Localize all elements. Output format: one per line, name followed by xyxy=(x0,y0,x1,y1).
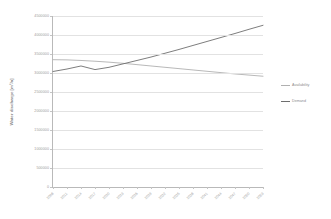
y-tick-label: 4000000 xyxy=(34,33,49,37)
gridline xyxy=(53,111,263,112)
y-tick-label: 500000 xyxy=(36,166,49,170)
y-axis-tick-labels: 4500000400000035000003000000250000020000… xyxy=(0,16,49,187)
x-tick-label: 2053 xyxy=(256,192,265,201)
gridline xyxy=(53,168,263,169)
gridline xyxy=(53,149,263,150)
y-tick-label: 3000000 xyxy=(34,71,49,75)
legend-item-demand: Demand xyxy=(281,100,306,104)
y-tick-label: 0 xyxy=(47,185,49,189)
y-tick-mark xyxy=(50,149,52,150)
x-tick-mark xyxy=(95,187,96,189)
x-tick-mark xyxy=(109,187,110,189)
x-tick-label: 2023 xyxy=(116,192,125,201)
x-axis-tick-labels: 2008201120142017202020232026202920322035… xyxy=(53,189,263,219)
x-axis-line xyxy=(52,187,264,188)
x-tick-mark xyxy=(81,187,82,189)
legend-label: Demand xyxy=(292,100,306,104)
x-tick-label: 2038 xyxy=(186,192,195,201)
line-chart: Water discharge [m³/a] 45000004000000350… xyxy=(0,0,331,219)
x-tick-label: 2050 xyxy=(242,192,251,201)
gridline xyxy=(53,92,263,93)
legend-item-availability: Availability xyxy=(281,84,309,88)
x-tick-label: 2014 xyxy=(74,192,83,201)
legend-swatch-icon xyxy=(281,101,290,102)
x-tick-mark xyxy=(123,187,124,189)
legend-swatch-icon xyxy=(281,85,290,86)
series-line-demand xyxy=(53,25,263,71)
y-tick-label: 1500000 xyxy=(34,128,49,132)
x-tick-label: 2035 xyxy=(172,192,181,201)
x-tick-mark xyxy=(53,187,54,189)
x-tick-mark xyxy=(249,187,250,189)
gridline xyxy=(53,16,263,17)
x-tick-mark xyxy=(221,187,222,189)
y-tick-mark xyxy=(50,168,52,169)
gridline xyxy=(53,130,263,131)
x-tick-mark xyxy=(179,187,180,189)
y-tick-mark xyxy=(50,92,52,93)
y-tick-label: 3500000 xyxy=(34,52,49,56)
x-tick-label: 2041 xyxy=(200,192,209,201)
x-tick-label: 2026 xyxy=(130,192,139,201)
y-tick-mark xyxy=(50,111,52,112)
x-tick-label: 2032 xyxy=(158,192,167,201)
x-tick-mark xyxy=(151,187,152,189)
y-tick-label: 4500000 xyxy=(34,14,49,18)
y-tick-label: 1000000 xyxy=(34,147,49,151)
y-tick-mark xyxy=(50,130,52,131)
x-tick-label: 2044 xyxy=(214,192,223,201)
y-tick-mark xyxy=(50,187,52,188)
x-tick-mark xyxy=(165,187,166,189)
y-tick-mark xyxy=(50,35,52,36)
x-tick-mark xyxy=(235,187,236,189)
x-tick-mark xyxy=(67,187,68,189)
x-tick-mark xyxy=(137,187,138,189)
legend-label: Availability xyxy=(292,84,309,88)
plot-area xyxy=(53,16,263,187)
x-tick-label: 2008 xyxy=(46,192,55,201)
y-tick-label: 2500000 xyxy=(34,90,49,94)
x-tick-label: 2029 xyxy=(144,192,153,201)
x-tick-mark xyxy=(263,187,264,189)
gridline xyxy=(53,35,263,36)
y-tick-label: 2000000 xyxy=(34,109,49,113)
x-tick-label: 2017 xyxy=(88,192,97,201)
x-tick-label: 2047 xyxy=(228,192,237,201)
y-tick-mark xyxy=(50,16,52,17)
series-lines xyxy=(53,16,263,187)
y-tick-mark xyxy=(50,73,52,74)
gridline xyxy=(53,54,263,55)
gridline xyxy=(53,73,263,74)
x-tick-label: 2020 xyxy=(102,192,111,201)
x-tick-label: 2011 xyxy=(60,192,69,201)
x-tick-mark xyxy=(193,187,194,189)
y-tick-mark xyxy=(50,54,52,55)
x-tick-mark xyxy=(207,187,208,189)
